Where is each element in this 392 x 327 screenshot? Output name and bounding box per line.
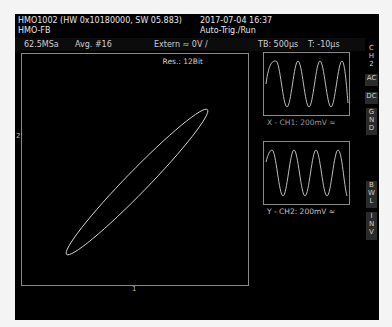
y-sine-wave [264, 142, 349, 204]
softkey-ch2[interactable]: C H 2 [366, 44, 377, 70]
y-channel-marker[interactable]: 2 [16, 132, 20, 140]
averaging: Avg. #16 [75, 38, 112, 51]
sample-rate: 62.5MSa [24, 38, 59, 51]
device-info: HMO1002 (HW 0x10180000, SW 05.883) HMO-F… [18, 16, 182, 36]
y-channel-label: Y - CH2: 200mV ≈ [267, 207, 335, 216]
x-channel-preview [263, 52, 350, 116]
y-channel-preview [263, 141, 350, 205]
timebase: TB: 500µs [258, 38, 298, 51]
resolution-label: Res.: 12Bit [163, 57, 203, 66]
mode-line: HMO-FB [18, 26, 50, 35]
trigger-source: Extern ≈ 0V / [154, 38, 208, 51]
softkey-inv[interactable]: I N V [366, 212, 377, 240]
softkey-dc[interactable]: DC [365, 92, 378, 104]
x-channel-marker[interactable]: 1 [132, 285, 136, 293]
trigger-state: Auto-Trig./Run [200, 26, 256, 35]
device-line: HMO1002 (HW 0x10180000, SW 05.883) [18, 16, 182, 25]
oscilloscope-screen: HMO1002 (HW 0x10180000, SW 05.883) HMO-F… [15, 14, 379, 320]
xy-plot: Res.: 12Bit [21, 53, 249, 286]
x-sine-wave [264, 53, 349, 115]
softkey-gnd[interactable]: G N D [366, 108, 377, 135]
title-bar: HMO1002 (HW 0x10180000, SW 05.883) HMO-F… [15, 14, 379, 38]
trigger-time: T: -10µs [308, 38, 340, 51]
date-trigger-info: 2017-07-04 16:37 Auto-Trig./Run [200, 16, 272, 36]
x-channel-label: X - CH1: 200mV ≈ [267, 118, 336, 127]
status-bar: 62.5MSa Avg. #16 Extern ≈ 0V / TB: 500µs… [15, 38, 365, 51]
lissajous-ellipse [22, 54, 248, 285]
softkey-bwl[interactable]: B W L [366, 181, 377, 208]
softkey-ac[interactable]: AC [365, 74, 378, 86]
datetime: 2017-07-04 16:37 [200, 16, 272, 25]
